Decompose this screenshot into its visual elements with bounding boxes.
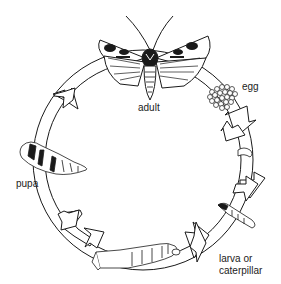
large-caterpillar-illustration [92, 243, 180, 270]
adult-moth-illustration [99, 16, 210, 100]
arrow-head-bottom-right [190, 222, 206, 262]
label-adult: adult [138, 102, 160, 114]
label-egg: egg [242, 81, 259, 93]
label-larva-line2: caterpillar [219, 265, 262, 277]
pupa-illustration [20, 142, 87, 175]
egg-cluster-illustration [208, 85, 238, 111]
label-pupa: pupa [16, 178, 38, 190]
label-larva-line1: larva or [219, 253, 252, 265]
small-larva-illustration [238, 148, 252, 157]
life-cycle-diagram [0, 0, 281, 284]
